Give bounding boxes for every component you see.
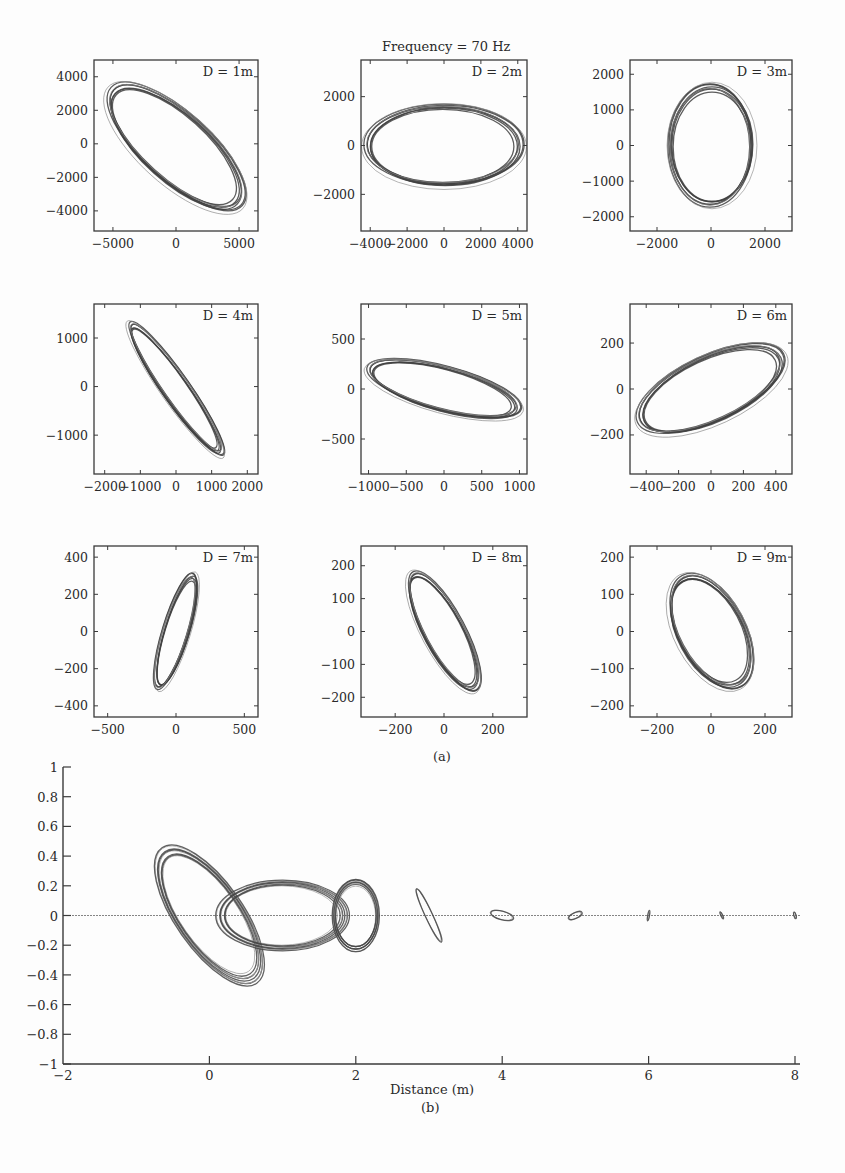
x-tick-label: −200 <box>378 722 412 737</box>
y-tick-label: −200 <box>321 690 355 705</box>
x-tick-label: 1000 <box>196 479 228 494</box>
panel-d8: −2000200−200−1000100200D = 8m <box>321 546 527 737</box>
x-tick-label: 0 <box>707 479 715 494</box>
y-tick-label-b: 0.2 <box>37 879 58 894</box>
y-tick-label-b: −0.8 <box>26 1027 58 1042</box>
panel-d1: −500005000−4000−2000020004000D = 1m <box>46 60 267 251</box>
axes-frame <box>361 60 527 231</box>
axes-frame <box>361 546 527 717</box>
distance-label: D = 5m <box>472 308 522 323</box>
x-tick-label: −2000 <box>636 236 678 251</box>
panel-a-grid: −500005000−4000−2000020004000D = 1m−4000… <box>46 60 802 737</box>
y-tick-label: 2000 <box>323 89 355 104</box>
y-tick-label: 0 <box>347 624 355 639</box>
distance-label: D = 9m <box>737 550 787 565</box>
y-tick-label: 2000 <box>592 67 624 82</box>
y-tick-label: −400 <box>54 698 88 713</box>
panel-d3: −200002000−2000−1000010002000D = 3m <box>582 60 792 251</box>
y-tick-label: −2000 <box>313 187 355 202</box>
x-tick-label: −200 <box>661 479 695 494</box>
x-tick-label: −400 <box>629 479 663 494</box>
x-tick-label: 200 <box>731 479 755 494</box>
y-tick-label-b: −0.2 <box>26 938 58 953</box>
y-tick-label: 1000 <box>592 102 624 117</box>
axes-frame <box>94 546 258 717</box>
orbit-trace <box>145 568 208 696</box>
y-tick-label-b: 0.6 <box>37 819 58 834</box>
y-tick-label: 4000 <box>56 69 88 84</box>
x-tick-label: 0 <box>172 236 180 251</box>
y-tick-label: 0 <box>616 382 624 397</box>
distance-label: D = 6m <box>737 308 787 323</box>
y-tick-label: −100 <box>321 657 355 672</box>
orbit-trace <box>362 104 527 190</box>
y-tick-label-b: 0.4 <box>37 849 58 864</box>
y-tick-label: −200 <box>54 661 88 676</box>
orbit-d5 <box>567 910 583 922</box>
orbit-d8 <box>793 911 797 919</box>
x-tick-label: −5000 <box>92 236 134 251</box>
x-tick-label-b: 8 <box>791 1068 799 1083</box>
y-tick-label-b: 1 <box>50 760 58 775</box>
distance-label: D = 2m <box>472 64 522 79</box>
panel-d6: −400−2000200400−2000200D = 6m <box>590 304 802 494</box>
x-tick-label: 0 <box>172 722 180 737</box>
x-tick-label: 0 <box>440 236 448 251</box>
x-tick-label-b: 2 <box>352 1068 360 1083</box>
y-tick-label: 0 <box>347 138 355 153</box>
x-tick-label: 2000 <box>749 236 781 251</box>
x-tick-label: −2000 <box>386 236 428 251</box>
y-tick-label: −4000 <box>46 203 88 218</box>
y-tick-label: −100 <box>590 661 624 676</box>
y-tick-label: 200 <box>600 336 624 351</box>
x-tick-label: 2000 <box>465 236 497 251</box>
y-tick-label: −2000 <box>46 170 88 185</box>
y-tick-label: 200 <box>600 550 624 565</box>
y-tick-label: 200 <box>331 558 355 573</box>
y-tick-label: 0 <box>80 624 88 639</box>
panel-d5: −1000−50005001000−5000500D = 5m <box>321 304 536 494</box>
y-tick-label: 100 <box>600 587 624 602</box>
orbit-trace <box>84 60 268 236</box>
y-tick-label: −200 <box>590 698 624 713</box>
y-tick-label: 0 <box>616 624 624 639</box>
orbit-trace <box>667 82 757 209</box>
orbit-trace <box>116 313 235 466</box>
distance-label: D = 7m <box>203 550 253 565</box>
y-tick-label: 0 <box>80 136 88 151</box>
y-tick-label: 100 <box>331 591 355 606</box>
y-tick-label: 1000 <box>56 331 88 346</box>
orbit-trace <box>391 561 494 704</box>
x-tick-label: 0 <box>707 236 715 251</box>
panel-d4: −2000−1000010002000−100001000D = 4m <box>46 304 264 494</box>
x-tick-label: −1000 <box>347 479 389 494</box>
x-tick-label: 1000 <box>504 479 536 494</box>
x-tick-label: 4000 <box>502 236 534 251</box>
x-tick-label-b: −2 <box>53 1068 72 1083</box>
y-tick-label: 0 <box>80 379 88 394</box>
x-tick-label: −500 <box>90 722 124 737</box>
x-tick-label: 0 <box>440 722 448 737</box>
y-tick-label-b: −0.4 <box>26 968 58 983</box>
y-tick-label: −500 <box>321 432 355 447</box>
x-tick-label: 200 <box>481 722 505 737</box>
x-tick-label: 200 <box>753 722 777 737</box>
y-tick-label: 0 <box>347 382 355 397</box>
figure-canvas: −500005000−4000−2000020004000D = 1m−4000… <box>0 0 845 1173</box>
orbit-trace <box>621 323 801 457</box>
y-tick-label-b: 0.8 <box>37 790 58 805</box>
x-tick-label: 2000 <box>231 479 263 494</box>
y-tick-label-b: −0.6 <box>26 998 58 1013</box>
x-tick-label: 400 <box>764 479 788 494</box>
axes-frame <box>630 546 792 717</box>
orbit-trace <box>358 346 529 434</box>
panel-d7: −5000500−400−2000200400D = 7m <box>54 546 258 737</box>
x-tick-label: −1000 <box>119 479 161 494</box>
panel-d9: −2000200−200−1000100200D = 9m <box>590 546 792 737</box>
y-tick-label: 0 <box>616 138 624 153</box>
x-tick-label-b: 4 <box>498 1068 506 1083</box>
y-tick-label: −1000 <box>46 428 88 443</box>
y-tick-label: −200 <box>590 427 624 442</box>
x-tick-label-b: 0 <box>205 1068 213 1083</box>
x-tick-label: 0 <box>440 479 448 494</box>
